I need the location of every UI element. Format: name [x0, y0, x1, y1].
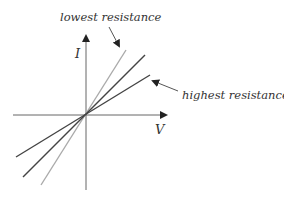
highest-resistance-pointer — [153, 81, 178, 91]
line-highest-resistance — [16, 75, 150, 157]
lowest-resistance-pointer — [109, 27, 119, 46]
x-axis-label: V — [155, 122, 166, 137]
lowest-resistance-label: lowest resistance — [60, 10, 162, 24]
highest-resistance-label: highest resistance — [182, 88, 284, 102]
y-axis-label: I — [74, 46, 81, 61]
line-lowest-resistance — [41, 50, 126, 185]
iv-diagram: I V lowest resistance highest resistance — [0, 0, 284, 199]
